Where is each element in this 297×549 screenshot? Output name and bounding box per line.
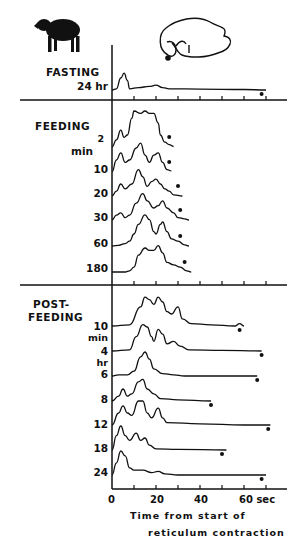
row-label-post-min: min	[48, 332, 108, 343]
x-tick-0: 0	[108, 494, 115, 505]
trace-line	[112, 379, 211, 401]
end-of-contraction-marker	[178, 208, 182, 212]
end-of-contraction-marker	[238, 328, 242, 332]
end-of-contraction-marker	[167, 160, 171, 164]
x-tick-40: 40	[194, 494, 208, 505]
trace-line	[112, 194, 189, 220]
trace-line	[112, 451, 266, 475]
row-label-post-18: 18	[48, 442, 108, 454]
row-label-post-hr: hr	[48, 357, 108, 368]
end-of-contraction-marker	[260, 353, 264, 357]
sheep-icon	[34, 19, 80, 52]
end-of-contraction-marker	[178, 234, 182, 238]
section-label-fasting: FASTING	[46, 66, 100, 78]
row-label-24hr: 24 hr	[48, 80, 108, 92]
row-label-post-6: 6	[48, 368, 108, 380]
reticulum-contraction-chart	[0, 0, 297, 549]
row-label-20: 20	[48, 187, 108, 199]
trace-line	[112, 215, 189, 246]
x-tick-20: 20	[150, 494, 164, 505]
row-label-post-4: 4	[48, 345, 108, 357]
end-of-contraction-marker	[220, 452, 224, 456]
trace-line	[112, 352, 257, 376]
x-axis-caption-line2: reticulum contraction	[148, 527, 285, 538]
end-of-contraction-marker	[183, 260, 187, 264]
trace-line	[112, 170, 182, 196]
trace-line	[112, 73, 266, 90]
stomach-diagram-icon	[160, 18, 230, 61]
trace-line	[112, 401, 270, 425]
row-label-min: min	[33, 145, 93, 157]
trace-line	[112, 246, 191, 272]
end-of-contraction-marker	[260, 92, 264, 96]
trace-line	[112, 297, 244, 326]
row-label-30: 30	[48, 211, 108, 223]
x-axis-caption-line1: Time from start of	[130, 510, 246, 521]
row-label-2: 2	[44, 133, 104, 144]
trace-line	[112, 426, 226, 450]
end-of-contraction-marker	[266, 427, 270, 431]
end-of-contraction-marker	[255, 378, 259, 382]
row-label-post-12: 12	[48, 418, 108, 430]
row-label-10: 10	[48, 163, 108, 175]
section-label-feeding: FEEDING	[35, 120, 90, 132]
end-of-contraction-marker	[176, 184, 180, 188]
trace-line	[112, 111, 174, 147]
trace-line	[112, 143, 171, 172]
row-label-180: 180	[48, 262, 108, 274]
x-tick-60: 60 sec	[239, 494, 275, 505]
end-of-contraction-marker	[209, 403, 213, 407]
row-label-post-10: 10	[48, 320, 108, 332]
end-of-contraction-marker	[260, 477, 264, 481]
end-of-contraction-marker	[167, 135, 171, 139]
row-label-post-8: 8	[48, 393, 108, 405]
section-label-post: POST-	[33, 298, 70, 310]
row-label-60: 60	[48, 237, 108, 249]
row-label-post-24: 24	[48, 466, 108, 478]
